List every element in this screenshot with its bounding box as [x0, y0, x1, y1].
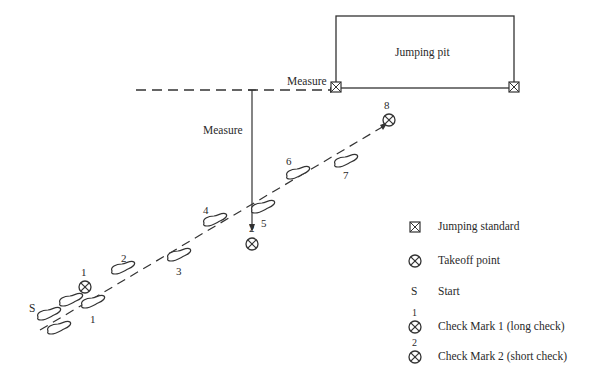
horizontal-measure-line [136, 87, 336, 93]
legend-takeoff-point-icon [409, 255, 421, 267]
footprint-start-a [38, 307, 61, 320]
takeoff-point-icon [383, 114, 395, 126]
footprint-start-c [60, 293, 83, 306]
step-label-3: 3 [176, 266, 182, 277]
measure-horizontal-label: Measure [287, 76, 327, 88]
check-mark-2-number: 2 [249, 223, 255, 234]
check-mark-2-icon [246, 238, 258, 250]
check-mark-1-number: 1 [81, 267, 87, 278]
legend-check-mark-2-icon [409, 351, 421, 363]
legend-label-check-mark-2: Check Mark 2 (short check) [438, 351, 567, 363]
start-label: S [29, 303, 35, 315]
legend-check-mark-1-icon [409, 321, 421, 333]
legend-label-takeoff-point: Takeoff point [438, 255, 500, 267]
footprint-7 [335, 154, 358, 167]
footprint-3 [168, 248, 191, 261]
pit-label: Jumping pit [395, 47, 450, 59]
legend-label-start: Start [438, 286, 460, 298]
jumping-standard-right-icon [509, 82, 519, 92]
footprint-1 [82, 295, 105, 308]
legend-check-mark-1-superscript: 1 [412, 308, 417, 318]
jumping-standard-left-icon [331, 82, 341, 92]
legend-check-mark-2-superscript: 2 [412, 338, 417, 348]
takeoff-number: 8 [384, 100, 390, 111]
step-label-2: 2 [121, 253, 127, 264]
measure-vertical-label: Measure [203, 125, 243, 137]
legend-label-check-mark-1: Check Mark 1 (long check) [438, 321, 564, 333]
legend-jumping-standard-icon [410, 222, 420, 232]
step-label-1: 1 [90, 314, 96, 325]
footprint-start-b [48, 321, 71, 334]
step-label-6: 6 [286, 156, 292, 167]
step-label-5: 5 [261, 218, 267, 229]
footprint-6 [287, 166, 310, 179]
legend-label-jumping-standard: Jumping standard [438, 221, 519, 233]
check-mark-1-icon [79, 281, 91, 293]
step-label-4: 4 [203, 205, 209, 216]
step-label-7: 7 [343, 170, 349, 181]
footprint-5 [252, 200, 275, 213]
legend-start-symbol: S [411, 286, 417, 298]
